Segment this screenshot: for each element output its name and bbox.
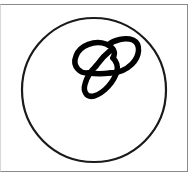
knot-diagram: [0, 0, 196, 184]
trefoil-knot: [75, 39, 139, 97]
enclosing-circle: [22, 18, 166, 162]
knot-strand-inner: [113, 58, 117, 71]
knot-strand-diagonal: [96, 49, 112, 66]
knot-strand-horizontal: [89, 73, 110, 74]
